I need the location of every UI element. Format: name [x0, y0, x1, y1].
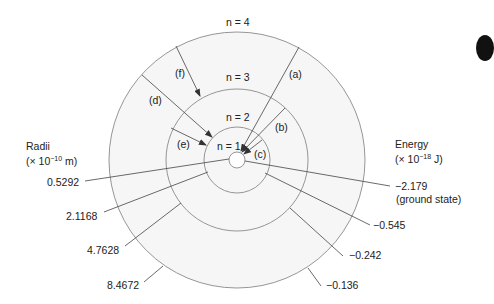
transition-label-a: (a) [289, 68, 302, 80]
radii-unit-suffix: m) [62, 155, 77, 167]
energy-unit-prefix: (× 10 [395, 153, 419, 165]
radii-unit: (× 10−10 m) [26, 153, 77, 167]
energy-value-n3: −0.242 [349, 249, 381, 261]
radius-leader-n4 [144, 266, 163, 282]
energy-value-n4: −0.136 [326, 279, 358, 291]
energy-leader-n4 [308, 268, 321, 286]
radius-value-n4: 8.4672 [107, 279, 139, 291]
level-label-n4: n = 4 [226, 16, 250, 28]
transition-label-b: (b) [275, 121, 288, 133]
energy-value-n2: −0.545 [373, 219, 405, 231]
radius-value-n2: 2.1168 [66, 210, 97, 222]
radii-unit-exp: −10 [50, 155, 62, 162]
level-label-n3: n = 3 [226, 71, 250, 83]
orbit-n1 [229, 152, 245, 168]
energy-unit-exp: −18 [419, 153, 431, 160]
transition-label-f: (f) [175, 67, 185, 79]
energy-title: Energy [395, 138, 428, 150]
radii-unit-prefix: (× 10 [26, 155, 50, 167]
page-corner-mark [476, 35, 494, 61]
level-label-n2: n = 2 [226, 111, 250, 123]
transition-label-d: (d) [149, 94, 162, 106]
transition-label-e: (e) [177, 138, 190, 150]
energy-unit: (× 10−18 J) [395, 151, 443, 165]
transition-label-c: (c) [254, 148, 266, 160]
energy-unit-suffix: J) [431, 153, 443, 165]
energy-value-n1: −2.179 [395, 180, 427, 192]
level-label-n1: n = 1 [217, 140, 241, 152]
energy-note-n1: (ground state) [396, 193, 461, 205]
radius-value-n1: 0.5292 [47, 176, 79, 188]
radius-value-n3: 4.7628 [87, 244, 119, 256]
radii-title: Radii [26, 140, 50, 152]
